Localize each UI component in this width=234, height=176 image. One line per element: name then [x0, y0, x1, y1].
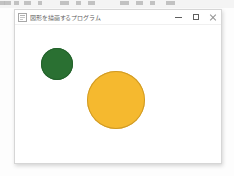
bg-glyph [136, 1, 143, 5]
drawing-canvas[interactable] [15, 25, 221, 163]
close-button[interactable] [204, 10, 221, 24]
app-window-icon [18, 13, 27, 22]
title-bar[interactable]: 図形を描画するプログラム [15, 10, 221, 25]
bg-glyph [4, 1, 11, 5]
bg-glyph [120, 1, 129, 5]
close-icon [209, 14, 216, 21]
maximize-button[interactable] [187, 10, 204, 24]
screen: 図形を描画するプログラム [0, 0, 234, 176]
bg-glyph [150, 1, 155, 5]
bg-glyph [88, 1, 95, 5]
maximize-icon [193, 14, 199, 20]
green-circle [41, 48, 73, 80]
bg-glyph [38, 1, 42, 5]
application-window: 図形を描画するプログラム [14, 9, 222, 164]
bg-glyph [60, 1, 69, 5]
window-title: 図形を描画するプログラム [30, 14, 170, 21]
bg-glyph [0, 1, 5, 5]
background-toolbar-strip [0, 0, 234, 8]
yellow-circle [87, 71, 145, 129]
bg-glyph [14, 1, 19, 5]
minimize-button[interactable] [170, 10, 187, 24]
bg-glyph [166, 1, 175, 5]
window-controls [170, 10, 221, 24]
minimize-icon [175, 17, 182, 18]
bg-glyph [76, 1, 81, 5]
bg-glyph [24, 1, 31, 5]
